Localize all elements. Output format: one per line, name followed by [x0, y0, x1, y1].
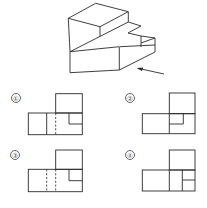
question-figure: ① ② ③ ④: [0, 0, 207, 208]
option-4-drawing: [142, 150, 195, 191]
option-2-drawing: [142, 93, 195, 134]
view-direction-arrow: [137, 68, 165, 74]
option-4-label[interactable]: ④: [125, 150, 135, 160]
option-1-drawing: [28, 94, 82, 135]
option-3-label[interactable]: ③: [10, 150, 20, 160]
isometric-object: [68, 3, 155, 72]
drawing-svg: [0, 0, 207, 208]
option-3-drawing: [28, 150, 82, 192]
option-1-label[interactable]: ①: [11, 93, 21, 103]
